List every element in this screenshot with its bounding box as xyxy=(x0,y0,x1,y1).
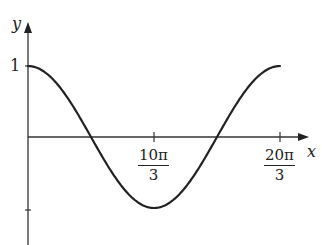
fraction-denominator: 3 xyxy=(149,166,159,183)
x-axis-label: x xyxy=(307,144,316,160)
x-axis-arrow-icon xyxy=(298,133,309,141)
fraction-numerator: 20π xyxy=(264,148,295,166)
y-axis-label: y xyxy=(12,16,21,32)
fraction-numerator: 10π xyxy=(138,148,169,166)
y-tick-label-1: 1 xyxy=(10,58,20,74)
cosine-graph xyxy=(0,0,322,245)
y-axis-arrow-icon xyxy=(24,22,32,33)
x-tick-label-10pi-3: 10π 3 xyxy=(138,148,169,183)
x-tick-label-20pi-3: 20π 3 xyxy=(264,148,295,183)
fraction-denominator: 3 xyxy=(275,166,285,183)
